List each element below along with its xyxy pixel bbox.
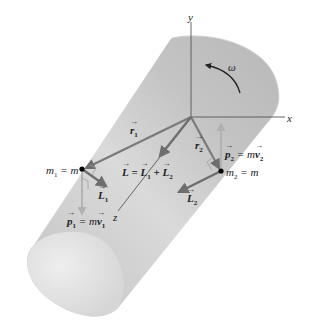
p1-symbol: p bbox=[67, 216, 73, 227]
v2-symbol: v bbox=[255, 149, 260, 160]
m1-symbol: m bbox=[46, 164, 54, 176]
L2-label: L2 bbox=[187, 193, 197, 207]
m2-equals: = m bbox=[237, 166, 258, 178]
mass-m1-dot bbox=[79, 166, 84, 171]
L2-term-subscript: 2 bbox=[169, 173, 173, 181]
L2-subscript: 2 bbox=[194, 199, 198, 207]
L1-term: L bbox=[141, 167, 148, 178]
z-axis-label: z bbox=[113, 212, 117, 223]
p1-equals: = m bbox=[76, 215, 97, 227]
m2-symbol: m bbox=[226, 166, 234, 178]
plus-sign: + bbox=[151, 166, 163, 178]
m1-label: m1 = m bbox=[46, 165, 78, 179]
p2-label: p2 = mv2 bbox=[225, 149, 263, 163]
m2-label: m2 = m bbox=[226, 167, 258, 181]
p2-symbol: p bbox=[225, 149, 231, 160]
v2-subscript: 2 bbox=[260, 155, 264, 163]
equals-sign: = bbox=[129, 166, 141, 178]
m1-equals: = m bbox=[57, 164, 78, 176]
mass-m2-dot bbox=[218, 168, 223, 173]
L2-term: L bbox=[163, 167, 170, 178]
L2-symbol: L bbox=[187, 193, 194, 204]
r2-label: r2 bbox=[195, 140, 203, 154]
omega-label: ω bbox=[228, 62, 236, 73]
r2-subscript: 2 bbox=[199, 146, 203, 154]
L-total-label: L = L1 + L2 bbox=[122, 167, 173, 181]
L-symbol: L bbox=[122, 167, 129, 178]
r1-label: r1 bbox=[130, 125, 138, 139]
r1-symbol: r bbox=[130, 125, 134, 136]
p1-label: p1 = mv1 bbox=[67, 216, 105, 230]
v1-subscript: 1 bbox=[102, 222, 106, 230]
v1-symbol: v bbox=[97, 216, 102, 227]
r1-subscript: 1 bbox=[134, 131, 138, 139]
x-axis-label: x bbox=[287, 113, 292, 124]
r2-symbol: r bbox=[195, 140, 199, 151]
y-axis-label: y bbox=[188, 12, 193, 23]
p2-equals: = m bbox=[234, 148, 255, 160]
L1-subscript: 1 bbox=[105, 196, 109, 204]
L1-label: L1 bbox=[98, 190, 108, 204]
L1-symbol: L bbox=[98, 190, 105, 201]
